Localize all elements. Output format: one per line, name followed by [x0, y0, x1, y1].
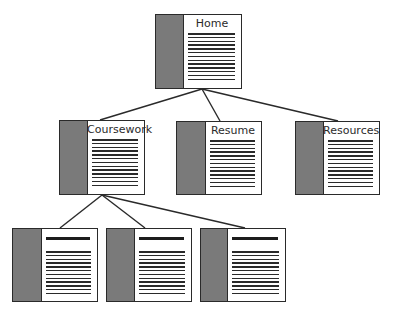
text-line [188, 48, 235, 50]
text-line [46, 278, 91, 280]
text-line [139, 251, 185, 253]
page-node-course-page-1 [12, 228, 98, 302]
text-line [46, 289, 91, 291]
text-line [328, 174, 373, 176]
text-line [210, 178, 255, 180]
text-line [92, 143, 138, 145]
text-line [139, 274, 185, 276]
page-heading-bar [139, 237, 184, 240]
text-line [232, 285, 279, 287]
text-line [188, 44, 235, 46]
text-line [210, 163, 255, 165]
text-line [328, 140, 373, 142]
text-line [92, 173, 138, 175]
text-line [46, 285, 91, 287]
text-line [188, 67, 235, 69]
text-line [46, 251, 91, 253]
text-line [328, 148, 373, 150]
text-line [210, 159, 255, 161]
text-line [232, 293, 279, 295]
text-line [232, 259, 279, 261]
text-line [328, 170, 373, 172]
text-line [92, 162, 138, 164]
text-line [210, 170, 255, 172]
page-text-lines [232, 251, 279, 297]
text-line [328, 151, 373, 153]
page-sidebar-block [201, 229, 228, 301]
page-node-course-page-2 [106, 228, 192, 302]
page-sidebar-block [177, 122, 206, 194]
page-node-coursework: Coursework [59, 120, 145, 195]
text-line [139, 266, 185, 268]
page-sidebar-block [13, 229, 42, 301]
text-line [210, 144, 255, 146]
text-line [188, 79, 235, 81]
text-line [328, 182, 373, 184]
page-sidebar-block [107, 229, 135, 301]
text-line [210, 151, 255, 153]
text-line [46, 293, 91, 295]
text-line [188, 33, 235, 35]
text-line [210, 148, 255, 150]
page-text-lines [188, 33, 235, 82]
text-line [210, 167, 255, 169]
text-line [139, 259, 185, 261]
text-line [139, 281, 185, 283]
text-line [139, 285, 185, 287]
page-sidebar-block [296, 122, 324, 194]
text-line [92, 177, 138, 179]
page-heading-bar [46, 237, 90, 240]
page-node-resources: Resources [295, 121, 380, 195]
page-title: Coursework [87, 124, 144, 136]
text-line [46, 259, 91, 261]
text-line [328, 159, 373, 161]
text-line [92, 185, 138, 187]
text-line [232, 281, 279, 283]
text-line [210, 186, 255, 188]
text-line [46, 266, 91, 268]
text-line [188, 71, 235, 73]
text-line [210, 174, 255, 176]
text-line [188, 37, 235, 39]
text-line [46, 274, 91, 276]
site-map-diagram: Home Coursework Resume Resources [0, 0, 393, 313]
text-line [232, 262, 279, 264]
text-line [232, 251, 279, 253]
text-line [139, 278, 185, 280]
text-line [328, 163, 373, 165]
page-title: Resume [205, 125, 261, 137]
text-line [188, 60, 235, 62]
page-sidebar-block [156, 15, 184, 88]
text-line [46, 255, 91, 257]
text-line [328, 167, 373, 169]
text-line [232, 274, 279, 276]
text-line [188, 56, 235, 58]
text-line [92, 166, 138, 168]
text-line [232, 278, 279, 280]
connector-home-to-coursework [100, 89, 202, 120]
text-line [328, 178, 373, 180]
page-text-lines [92, 139, 138, 188]
page-node-resume: Resume [176, 121, 262, 195]
text-line [46, 270, 91, 272]
text-line [188, 41, 235, 43]
text-line [328, 155, 373, 157]
text-line [92, 150, 138, 152]
text-line [232, 266, 279, 268]
text-line [188, 63, 235, 65]
page-title: Home [183, 18, 241, 30]
text-line [139, 293, 185, 295]
page-heading-bar [232, 237, 278, 240]
text-line [139, 289, 185, 291]
page-node-home: Home [155, 14, 242, 89]
text-line [92, 154, 138, 156]
page-sidebar-block [60, 121, 88, 194]
text-line [232, 270, 279, 272]
page-text-lines [46, 251, 91, 297]
page-text-lines [210, 140, 255, 189]
text-line [210, 140, 255, 142]
text-line [188, 52, 235, 54]
text-line [188, 75, 235, 77]
connector-home-to-resources [202, 89, 338, 121]
connector-home-to-resume [202, 89, 220, 121]
